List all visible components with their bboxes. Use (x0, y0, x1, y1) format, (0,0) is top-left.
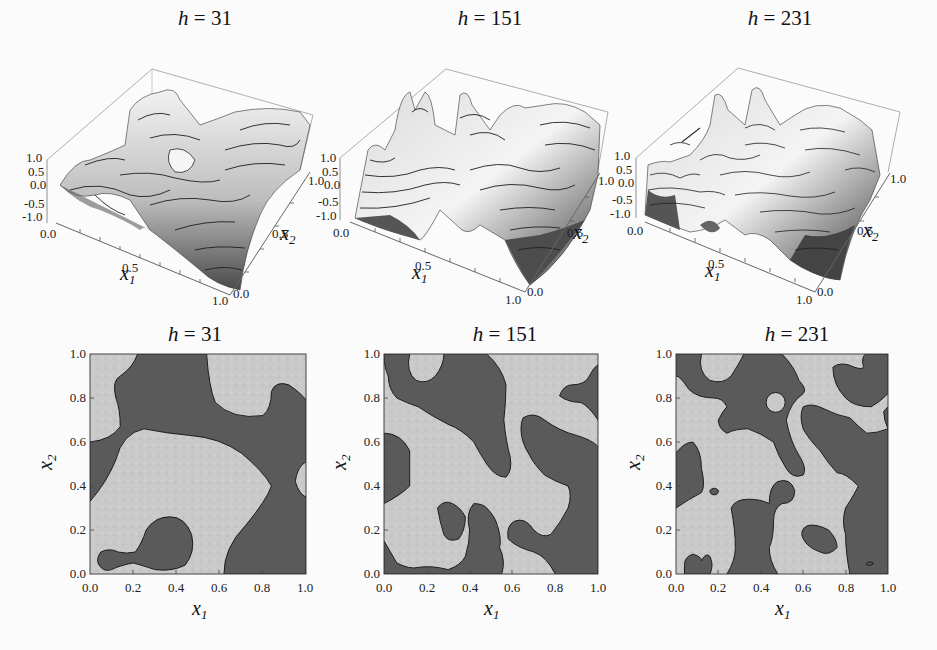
contour-plot-h151: 0.0 0.2 0.4 0.6 0.8 1.0 0.0 0.2 0.4 0.6 … (328, 346, 606, 622)
surface-plot-h151: 1.0 0.5 0.0 -0.5 -1.0 0.0 0.5 1.0 0.0 0.… (316, 69, 614, 307)
y-tick: 0.8 (364, 390, 380, 405)
y-axis-label: x2 (328, 454, 353, 471)
y-tick: 0.6 (70, 434, 87, 449)
x-axis-label: x1 (774, 597, 790, 622)
contour-plot-h31: 0.0 0.2 0.4 0.6 0.8 1.0 0.0 0.2 0.4 0.6 … (34, 346, 313, 622)
y-tick: 0.4 (656, 478, 673, 493)
y-tick: 0.2 (656, 522, 672, 537)
z-tick: 1.0 (614, 148, 630, 163)
y-tick: 1.0 (364, 346, 380, 361)
z-tick: -1.0 (316, 208, 337, 223)
x2-axis-label: x2 (279, 222, 296, 247)
z-tick: 0.0 (618, 175, 634, 190)
z-tick: 1.0 (26, 150, 42, 165)
x-tick: 1.0 (297, 580, 313, 595)
x-tick: 0.8 (254, 580, 270, 595)
x1-tick: 1.0 (505, 292, 521, 307)
y-tick: 0.4 (364, 478, 381, 493)
surface-plot-h231: 1.0 0.5 0.0 -0.5 -1.0 0.0 0.5 1.0 0.0 0.… (610, 68, 906, 307)
x-axis-label: x1 (483, 597, 499, 622)
x-tick: 0.0 (376, 580, 392, 595)
y-tick: 0.0 (364, 566, 380, 581)
z-tick: -1.0 (610, 206, 631, 221)
y-tick: 0.6 (364, 434, 381, 449)
contour-area (676, 354, 888, 574)
x-tick: 0.0 (82, 580, 98, 595)
surface-plot-h31: 1.0 0.5 0.0 -0.5 -1.0 0.0 0.5 1.0 0.0 0.… (22, 69, 324, 308)
x-tick: 0.4 (462, 580, 479, 595)
z-tick: 0.0 (324, 177, 340, 192)
x-tick: 0.2 (710, 580, 726, 595)
x-tick: 0.4 (753, 580, 770, 595)
x-tick: 0.8 (547, 580, 563, 595)
y-tick: 0.2 (70, 522, 86, 537)
x-tick: 0.2 (125, 580, 141, 595)
contour-plot-h231: 0.0 0.2 0.4 0.6 0.8 1.0 0.0 0.2 0.4 0.6 … (622, 346, 896, 622)
y-tick: 1.0 (656, 346, 672, 361)
x2-axis-label: x2 (862, 219, 879, 244)
y-tick: 0.2 (364, 522, 380, 537)
x-tick: 1.0 (590, 580, 606, 595)
x1-tick: 0.0 (627, 223, 643, 238)
contour-area (90, 354, 306, 574)
x-tick: 0.2 (419, 580, 435, 595)
x-tick: 0.6 (211, 580, 228, 595)
z-tick: -0.5 (318, 194, 339, 209)
x2-tick: 0.0 (233, 286, 249, 301)
y-axis-label: x2 (34, 454, 59, 471)
x-axis-label: x1 (191, 597, 207, 622)
y-tick: 0.8 (656, 390, 672, 405)
x-tick: 0.6 (504, 580, 521, 595)
y-tick: 1.0 (70, 346, 86, 361)
x2-tick: 1.0 (890, 171, 906, 186)
x2-tick: 1.0 (598, 173, 614, 188)
x1-tick: 0.0 (333, 225, 349, 240)
y-tick: 0.6 (656, 434, 673, 449)
x1-tick: 1.0 (796, 292, 812, 307)
z-tick: 1.0 (320, 150, 336, 165)
y-tick: 0.4 (70, 478, 87, 493)
z-tick: -1.0 (22, 209, 43, 224)
x2-axis-label: x2 (572, 221, 589, 246)
x-tick: 0.8 (838, 580, 854, 595)
x-tick: 0.0 (668, 580, 684, 595)
y-tick: 0.8 (70, 390, 86, 405)
z-tick: -0.5 (612, 192, 633, 207)
x2-tick: 0.0 (817, 284, 833, 299)
z-tick: 0.0 (30, 177, 46, 192)
y-axis-label: x2 (622, 454, 647, 471)
x1-tick: 1.0 (212, 293, 228, 308)
y-tick: 0.0 (70, 566, 86, 581)
y-tick: 0.0 (656, 566, 672, 581)
x-tick: 1.0 (880, 580, 896, 595)
x-tick: 0.4 (168, 580, 185, 595)
x1-tick: 0.0 (40, 226, 56, 241)
x-tick: 0.6 (795, 580, 812, 595)
figure-canvas: 1.0 0.5 0.0 -0.5 -1.0 0.0 0.5 1.0 0.0 0.… (0, 0, 937, 650)
contour-area (384, 354, 598, 574)
x2-tick: 0.0 (527, 284, 543, 299)
